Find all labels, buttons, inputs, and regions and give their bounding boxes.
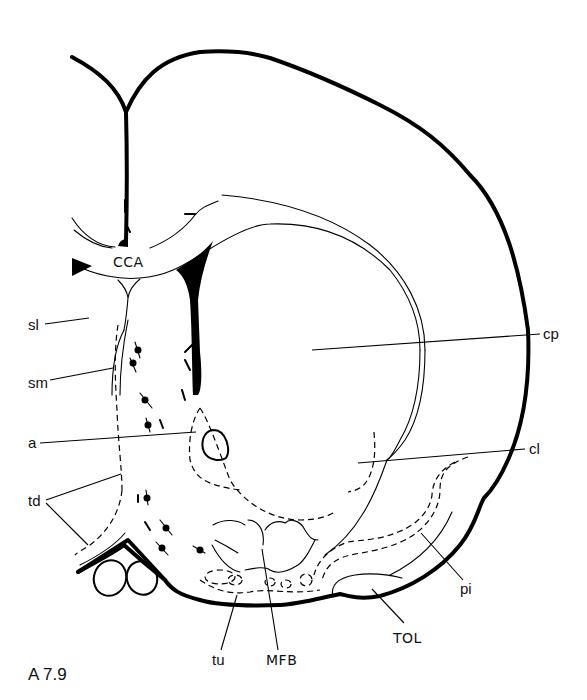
labels: sl sm a td cp cl pi TOL tu MFB A 7.9 bbox=[28, 316, 559, 684]
septal-boundaries bbox=[75, 320, 128, 565]
label-TOL: TOL bbox=[392, 630, 422, 646]
plate-label: A 7.9 bbox=[28, 665, 67, 684]
caudate-putamen-boundary bbox=[325, 350, 425, 555]
label-sm: sm bbox=[28, 374, 48, 391]
label-CCA: CCA bbox=[113, 254, 144, 270]
label-td: td bbox=[28, 492, 41, 509]
accumbens-region bbox=[189, 408, 335, 520]
label-tu: tu bbox=[212, 651, 225, 668]
label-sl: sl bbox=[28, 316, 39, 333]
brain-section-diagram: CCA bbox=[0, 0, 587, 700]
label-cp: cp bbox=[543, 325, 559, 342]
label-cl: cl bbox=[529, 440, 540, 457]
outer-contour bbox=[72, 51, 528, 605]
label-a: a bbox=[28, 434, 37, 451]
ventral-structures bbox=[200, 520, 320, 593]
label-MFB: MFB bbox=[266, 652, 297, 668]
label-pi: pi bbox=[460, 580, 472, 597]
